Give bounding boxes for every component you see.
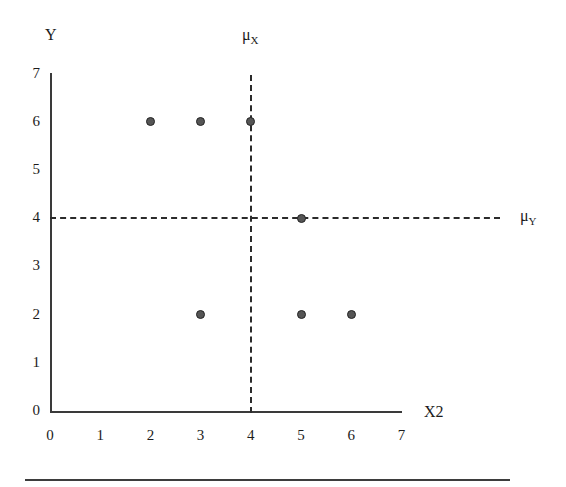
x-tick-label: 7: [392, 428, 410, 443]
x-axis-title: X2: [424, 404, 444, 420]
y-tick-label: 7: [22, 66, 40, 81]
y-tick-label: 1: [22, 355, 40, 370]
data-point: [196, 117, 205, 126]
mean-y-reference-line: [50, 217, 500, 219]
x-tick-label: 3: [192, 428, 210, 443]
data-point: [246, 117, 255, 126]
mean-y-label-subscript: Y: [529, 215, 537, 227]
x-tick-label: 1: [91, 428, 109, 443]
data-point: [297, 310, 306, 319]
mean-x-label-subscript: X: [251, 34, 259, 46]
y-tick-label: 3: [22, 258, 40, 273]
x-tick-label: 2: [141, 428, 159, 443]
data-point: [347, 310, 356, 319]
mean-y-label: μY: [520, 208, 537, 227]
footer-rule: [25, 479, 510, 481]
y-tick-label: 4: [22, 210, 40, 225]
x-tick-label: 0: [41, 428, 59, 443]
data-point: [196, 310, 205, 319]
y-tick-label: 2: [22, 307, 40, 322]
x-tick-label: 4: [242, 428, 260, 443]
x-tick-label: 6: [342, 428, 360, 443]
x-axis-line: [50, 411, 402, 413]
scatter-plot-figure: Y X2 μX μY 01234567 01234567: [0, 0, 566, 487]
mean-y-label-base: μ: [520, 207, 529, 224]
y-axis-line: [50, 73, 52, 413]
y-tick-label: 5: [22, 162, 40, 177]
data-point: [146, 117, 155, 126]
y-axis-title: Y: [45, 27, 57, 43]
mean-x-label: μX: [242, 27, 259, 46]
data-point: [297, 214, 306, 223]
y-tick-label: 6: [22, 114, 40, 129]
x-tick-label: 5: [292, 428, 310, 443]
mean-x-label-base: μ: [242, 26, 251, 43]
y-tick-label: 0: [22, 403, 40, 418]
